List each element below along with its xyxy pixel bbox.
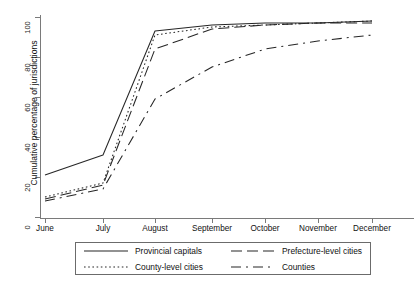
series-line-2 xyxy=(45,23,372,199)
y-axis-title: Cumulative percentage of jurisdictions xyxy=(29,13,39,213)
series-line-1 xyxy=(45,21,372,175)
plot-area xyxy=(40,17,402,217)
x-tick-label-august: August xyxy=(142,224,168,233)
chart-figure: 020406080100 Cumulative percentage of ju… xyxy=(0,0,417,282)
x-tick xyxy=(318,218,319,223)
x-tick xyxy=(155,218,156,223)
x-tick xyxy=(265,218,266,223)
x-tick xyxy=(372,218,373,223)
legend-line-icon-long-dash xyxy=(230,247,276,255)
x-tick xyxy=(103,218,104,223)
legend-entry-counties: Counties xyxy=(223,259,370,275)
y-tick-label: 0 xyxy=(23,217,32,239)
legend-entry-provincial-capitals: Provincial capitals xyxy=(76,243,223,259)
legend-label: Counties xyxy=(282,262,315,272)
legend-row: County-level cities Counties xyxy=(76,259,370,275)
x-tick-label-november: November xyxy=(299,224,337,233)
x-tick xyxy=(212,218,213,223)
legend-entry-prefecture-level-cities: Prefecture-level cities xyxy=(223,243,370,259)
legend-row: Provincial capitals Prefecture-level cit… xyxy=(76,243,370,259)
line-chart-svg xyxy=(40,17,402,217)
x-tick-label-september: September xyxy=(192,224,232,233)
x-tick-label-june: June xyxy=(36,224,54,233)
legend-entry-county-level-cities: County-level cities xyxy=(76,259,223,275)
x-tick-label-october: October xyxy=(250,224,279,233)
legend-label: Provincial capitals xyxy=(135,246,202,256)
x-tick xyxy=(45,218,46,223)
series-line-3 xyxy=(45,21,372,197)
legend-label: Prefecture-level cities xyxy=(282,246,362,256)
series-line-4 xyxy=(45,35,372,201)
x-tick-label-july: July xyxy=(96,224,111,233)
legend-line-icon-dash-dot xyxy=(230,263,276,271)
legend-line-icon-solid xyxy=(83,247,129,255)
legend-line-icon-dotted xyxy=(83,263,129,271)
x-axis-line xyxy=(40,218,414,219)
chart-legend: Provincial capitals Prefecture-level cit… xyxy=(75,242,371,275)
x-tick-label-december: December xyxy=(353,224,391,233)
y-axis-line xyxy=(40,15,41,219)
legend-label: County-level cities xyxy=(135,262,203,272)
